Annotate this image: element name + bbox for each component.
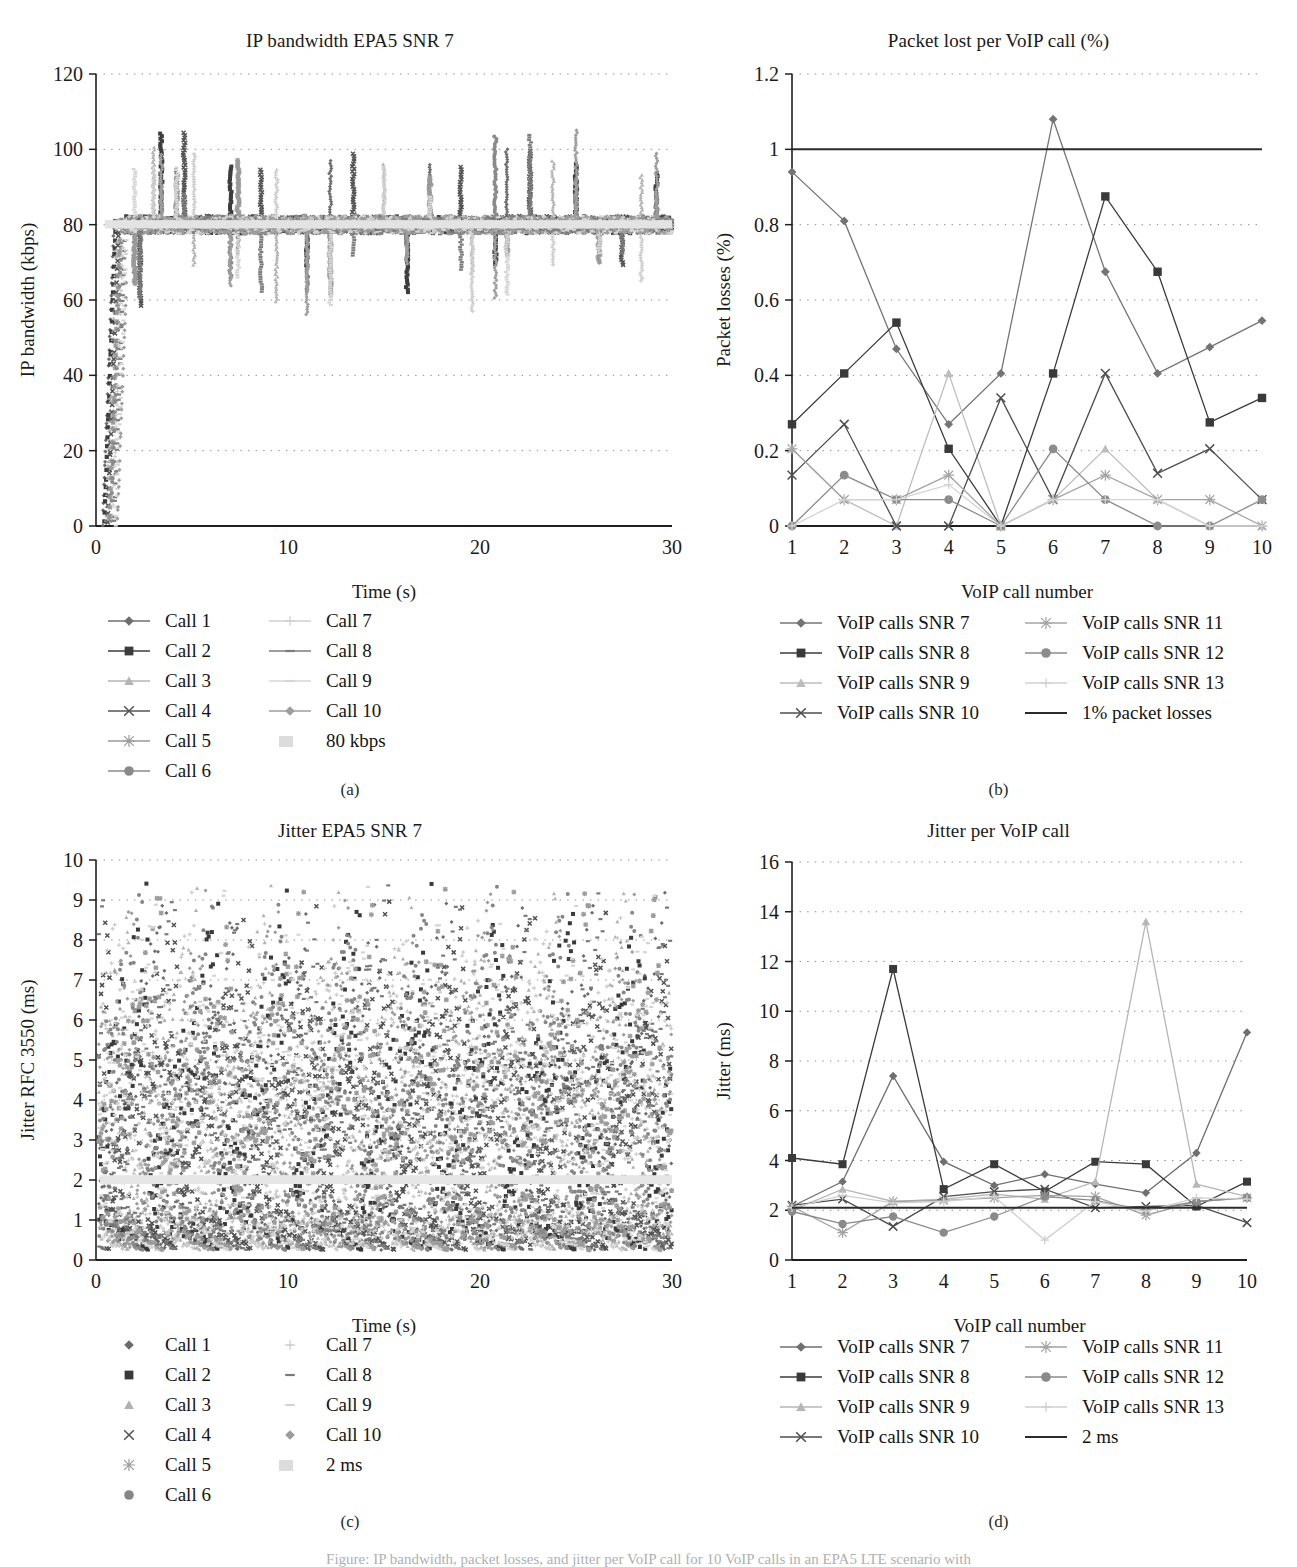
data-point xyxy=(285,889,289,893)
star-icon xyxy=(1023,1338,1069,1356)
legend-d-item[interactable]: VoIP calls SNR 7 xyxy=(778,1332,979,1362)
data-point xyxy=(159,1247,164,1252)
legend-d-item[interactable]: VoIP calls SNR 11 xyxy=(1023,1332,1224,1362)
legend-d-item[interactable]: VoIP calls SNR 12 xyxy=(1023,1362,1224,1392)
data-point xyxy=(636,959,640,963)
data-point xyxy=(235,1048,239,1052)
legend-c-item[interactable]: Call 9 xyxy=(267,1390,381,1420)
data-point xyxy=(289,1120,293,1124)
legend-b-item[interactable]: 1% packet losses xyxy=(1023,698,1224,728)
legend-c-item[interactable]: Call 4 xyxy=(106,1420,211,1450)
data-point xyxy=(469,1148,474,1153)
legend-a-item[interactable]: Call 1 xyxy=(106,606,211,636)
legend-a-item[interactable]: Call 9 xyxy=(267,666,386,696)
data-point xyxy=(395,1093,399,1097)
data-point xyxy=(406,290,410,294)
x-tick-label: 8 xyxy=(1153,536,1163,558)
panel-a: IP bandwidth EPA5 SNR 7 0204060801001200… xyxy=(0,30,700,590)
legend-c-item[interactable]: Call 5 xyxy=(106,1450,211,1480)
legend-a-item[interactable]: Call 4 xyxy=(106,696,211,726)
data-point xyxy=(546,1187,550,1191)
y-tick-label: 0 xyxy=(73,515,83,537)
data-point xyxy=(412,1195,416,1199)
legend-a-item[interactable]: Call 2 xyxy=(106,636,211,666)
data-point xyxy=(214,1047,219,1052)
legend-b-item[interactable]: VoIP calls SNR 12 xyxy=(1023,638,1224,668)
data-point xyxy=(538,960,542,964)
data-point xyxy=(121,367,125,371)
data-point xyxy=(640,269,644,273)
legend-a-item[interactable]: 80 kbps xyxy=(267,726,386,756)
data-point xyxy=(361,1123,365,1127)
legend-c-item[interactable]: Call 10 xyxy=(267,1420,381,1450)
data-point xyxy=(195,886,199,890)
data-point xyxy=(630,1224,635,1229)
legend-b-item[interactable]: VoIP calls SNR 9 xyxy=(778,668,979,698)
data-point xyxy=(468,1066,472,1070)
legend-b-item[interactable]: VoIP calls SNR 8 xyxy=(778,638,979,668)
legend-b-item[interactable]: VoIP calls SNR 7 xyxy=(778,608,979,638)
data-point xyxy=(642,1199,646,1203)
data-point xyxy=(209,1002,213,1006)
data-point xyxy=(323,967,327,971)
legend-a-label: Call 7 xyxy=(326,610,372,632)
legend-d-item[interactable]: 2 ms xyxy=(1023,1422,1224,1452)
data-point xyxy=(135,1107,139,1111)
legend-d-item[interactable]: VoIP calls SNR 10 xyxy=(778,1422,979,1452)
legend-a-item[interactable]: Call 6 xyxy=(106,756,211,786)
data-point xyxy=(492,1127,496,1131)
data-point xyxy=(133,1058,137,1062)
y-tick-label: 0 xyxy=(73,1249,83,1271)
data-point xyxy=(497,1156,501,1160)
legend-a-item[interactable]: Call 7 xyxy=(267,606,386,636)
data-point xyxy=(540,971,544,975)
panel-b-title: Packet lost per VoIP call (%) xyxy=(700,30,1297,52)
data-point xyxy=(602,1114,607,1119)
legend-d-item[interactable]: VoIP calls SNR 9 xyxy=(778,1392,979,1422)
data-point xyxy=(378,1184,383,1189)
legend-c-item[interactable]: Call 6 xyxy=(106,1480,211,1510)
data-point xyxy=(294,964,299,969)
data-point xyxy=(496,1034,500,1038)
legend-b-item[interactable]: VoIP calls SNR 11 xyxy=(1023,608,1224,638)
data-point xyxy=(647,1168,651,1172)
data-point xyxy=(507,1149,511,1153)
data-point xyxy=(332,904,336,908)
legend-a-item[interactable]: Call 5 xyxy=(106,726,211,756)
data-point xyxy=(253,1023,257,1027)
legend-a-item[interactable]: Call 3 xyxy=(106,666,211,696)
data-point xyxy=(336,1164,340,1168)
data-point xyxy=(104,1121,108,1125)
data-point xyxy=(130,1034,134,1038)
data-point xyxy=(469,1201,473,1205)
square-icon xyxy=(106,642,152,660)
x-tick-label: 10 xyxy=(278,536,298,558)
data-point xyxy=(596,955,600,959)
series-lines xyxy=(787,115,1268,532)
data-point xyxy=(253,1041,257,1045)
data-point xyxy=(461,1100,465,1104)
data-point xyxy=(108,1022,112,1026)
data-point xyxy=(156,1069,161,1074)
data-point xyxy=(418,998,422,1002)
legend-c-column-left: Call 1Call 2Call 3Call 4Call 5Call 6 xyxy=(106,1330,211,1510)
legend-c-item[interactable]: Call 7 xyxy=(267,1330,381,1360)
legend-d-item[interactable]: VoIP calls SNR 13 xyxy=(1023,1392,1224,1422)
data-point xyxy=(482,959,486,963)
legend-a-item[interactable]: Call 8 xyxy=(267,636,386,666)
data-point xyxy=(151,1055,156,1060)
data-point xyxy=(423,1010,428,1015)
data-point xyxy=(622,990,626,994)
data-point xyxy=(510,945,515,950)
legend-c-item[interactable]: Call 2 xyxy=(106,1360,211,1390)
legend-b-item[interactable]: VoIP calls SNR 10 xyxy=(778,698,979,728)
legend-c-item[interactable]: 2 ms xyxy=(267,1450,381,1480)
legend-d-item[interactable]: VoIP calls SNR 8 xyxy=(778,1362,979,1392)
legend-c-item[interactable]: Call 8 xyxy=(267,1360,381,1390)
data-point xyxy=(369,912,374,917)
data-point xyxy=(112,1070,116,1074)
legend-b-item[interactable]: VoIP calls SNR 13 xyxy=(1023,668,1224,698)
legend-c-item[interactable]: Call 3 xyxy=(106,1390,211,1420)
legend-a-item[interactable]: Call 10 xyxy=(267,696,386,726)
legend-c-item[interactable]: Call 1 xyxy=(106,1330,211,1360)
